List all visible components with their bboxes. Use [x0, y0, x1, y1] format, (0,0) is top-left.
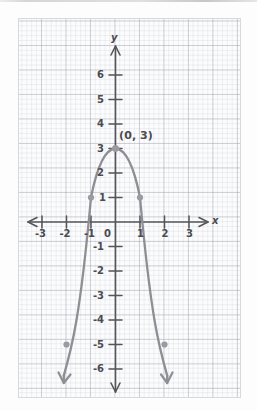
x-tick-label--2: -2: [60, 229, 71, 239]
graph-page: -3 -2 -1 1 2 3 0 6 5 4 3 2 1 -1 -2 -3 -4…: [0, 0, 257, 411]
x-axis: [28, 216, 208, 228]
point-marker: [161, 341, 167, 347]
point-marker: [112, 145, 119, 152]
x-tick-label-3: 3: [186, 229, 193, 239]
x-axis-name-label: x: [212, 216, 218, 226]
x-tick-label--1: -1: [84, 229, 95, 239]
x-tick-label--3: -3: [35, 229, 46, 239]
y-axis: [109, 46, 122, 392]
point-marker: [88, 194, 94, 200]
y-tick-label-1: 1: [99, 193, 106, 203]
y-tick-label-5: 5: [97, 95, 104, 105]
y-tick-label--1: -1: [93, 242, 104, 252]
point-marker: [137, 194, 143, 200]
y-tick-label--3: -3: [93, 291, 104, 301]
x-tick-label-1: 1: [137, 229, 144, 239]
graph-drawing-layer: [0, 0, 257, 411]
point-marker: [63, 341, 69, 347]
y-tick-label--4: -4: [93, 315, 104, 325]
y-tick-label--6: -6: [93, 364, 104, 374]
y-tick-label--2: -2: [93, 266, 104, 276]
y-tick-label-4: 4: [97, 119, 104, 129]
y-tick-label-6: 6: [97, 70, 104, 80]
vertex-coordinate-label: (0, 3): [119, 130, 153, 141]
y-tick-label-3: 3: [97, 144, 104, 154]
y-tick-label-2: 2: [97, 168, 104, 178]
y-tick-label--5: -5: [93, 340, 104, 350]
x-tick-label-2: 2: [162, 229, 169, 239]
origin-label: 0: [104, 229, 111, 239]
y-axis-name-label: y: [111, 33, 118, 43]
